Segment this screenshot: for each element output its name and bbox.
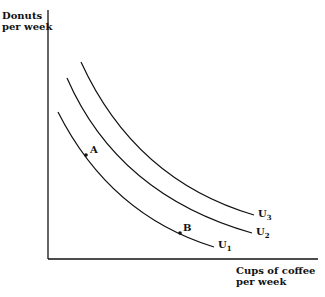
- y-axis-label: Donutsper week: [2, 10, 52, 32]
- point-a-label: A: [90, 144, 98, 155]
- indifference-curve-diagram: [0, 0, 325, 297]
- indifference-curve-u2: [67, 78, 252, 233]
- curve-label-u1: U1: [218, 239, 232, 253]
- point-b-marker: [178, 231, 182, 235]
- point-a-marker: [84, 153, 88, 157]
- curve-label-u3: U3: [258, 208, 272, 222]
- indifference-curve-u3: [81, 62, 254, 215]
- curve-label-u2: U2: [256, 226, 270, 240]
- point-b-label: B: [183, 222, 191, 233]
- x-axis-label: Cups of coffeeper week: [236, 265, 315, 287]
